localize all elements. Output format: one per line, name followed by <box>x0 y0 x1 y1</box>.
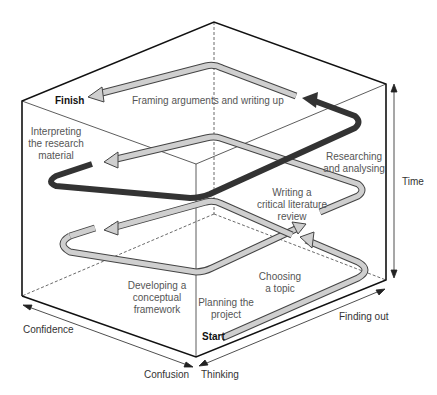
choosing-line-1: Choosing <box>252 271 308 283</box>
start-label: Start <box>202 331 225 343</box>
planning-line-1: Planning the <box>196 297 256 309</box>
choosing-line-2: a topic <box>252 283 308 295</box>
researching-line-1: Researching <box>322 151 386 163</box>
developing-line-1: Developing a <box>122 280 192 292</box>
researching-line-2: and analysing <box>322 163 386 175</box>
stage-label-writing-review: Writing a critical literature review <box>244 187 340 223</box>
axis-label-finding-out: Finding out <box>339 311 388 323</box>
axis-label-thinking: Thinking <box>201 369 239 381</box>
axis-label-confidence: Confidence <box>23 324 74 336</box>
finish-label: Finish <box>55 95 84 107</box>
interpreting-line-1: Interpreting <box>22 126 90 138</box>
writing-line-1: Writing a <box>244 187 340 199</box>
writing-line-3: review <box>244 211 340 223</box>
interpreting-line-3: material <box>22 150 90 162</box>
developing-line-2: conceptual <box>122 292 192 304</box>
writing-line-2: critical literature <box>244 199 340 211</box>
stage-label-interpreting: Interpreting the research material <box>22 126 90 162</box>
axis-label-confusion: Confusion <box>144 369 189 381</box>
axis-label-time: Time <box>402 176 424 188</box>
stage-label-researching: Researching and analysing <box>322 151 386 175</box>
stage-label-choosing: Choosing a topic <box>252 271 308 295</box>
planning-line-2: project <box>196 309 256 321</box>
stage-label-framing: Framing arguments and writing up <box>132 95 284 107</box>
stage-label-developing: Developing a conceptual framework <box>122 280 192 316</box>
interpreting-line-2: the research <box>22 138 90 150</box>
stage-label-planning: Planning the project <box>196 297 256 321</box>
developing-line-3: framework <box>122 304 192 316</box>
